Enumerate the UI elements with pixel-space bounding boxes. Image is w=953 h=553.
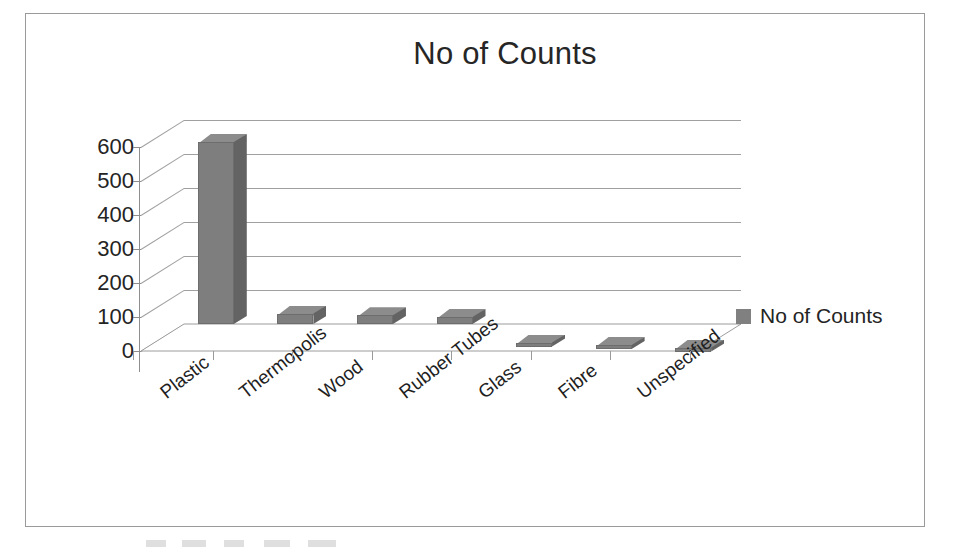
y-tick-label-100: 100 xyxy=(56,306,134,328)
bar-thermopolis xyxy=(277,306,326,324)
gridline-riser-600 xyxy=(141,120,185,148)
plot-area xyxy=(141,126,741,386)
x-tick-mark xyxy=(610,351,611,360)
y-tick-label-500: 500 xyxy=(56,170,134,192)
bar-fibre xyxy=(596,337,645,349)
x-tick-mark xyxy=(372,351,373,360)
y-tick-mark-500 xyxy=(133,181,141,182)
bar-wood xyxy=(357,307,406,324)
bar-front-face xyxy=(437,317,473,324)
bar-side-face xyxy=(234,134,247,324)
gridline-400 xyxy=(184,188,741,189)
bar-plastic xyxy=(198,134,247,324)
bar-front-face xyxy=(596,345,632,349)
x-tick-mark xyxy=(690,351,691,360)
y-tick-label-200: 200 xyxy=(56,272,134,294)
legend-swatch-no-of-counts xyxy=(736,309,751,324)
gridline-riser-500 xyxy=(141,154,185,182)
gridline-riser-400 xyxy=(141,188,185,216)
gridline-0 xyxy=(184,324,741,325)
bar-front-face xyxy=(357,315,393,324)
y-tick-mark-300 xyxy=(133,249,141,250)
y-tick-mark-200 xyxy=(133,283,141,284)
gridline-100 xyxy=(184,290,741,291)
legend-label-no-of-counts: No of Counts xyxy=(760,304,883,328)
gridline-300 xyxy=(184,222,741,223)
x-tick-mark xyxy=(292,351,293,360)
y-tick-mark-400 xyxy=(133,215,141,216)
gridline-riser-0 xyxy=(141,324,185,352)
chart-frame: No of Counts 6005004003002001000 Plastic… xyxy=(25,13,925,527)
x-tick-mark xyxy=(213,351,214,360)
y-tick-mark-0 xyxy=(133,351,141,352)
y-tick-mark-100 xyxy=(133,317,141,318)
y-tick-label-600: 600 xyxy=(56,136,134,158)
x-tick-mark xyxy=(531,351,532,360)
gridline-riser-100 xyxy=(141,290,185,318)
y-axis-tick-labels: 6005004003002001000 xyxy=(56,126,134,386)
bar-front-face xyxy=(198,142,234,324)
gridline-riser-300 xyxy=(141,222,185,250)
y-tick-label-400: 400 xyxy=(56,204,134,226)
gridline-200 xyxy=(184,256,741,257)
x-tick-mark xyxy=(451,351,452,360)
x-tick-mark xyxy=(133,351,134,360)
bar-glass xyxy=(516,335,565,347)
y-tick-label-300: 300 xyxy=(56,238,134,260)
gridline-riser-200 xyxy=(141,256,185,284)
gridline-600 xyxy=(184,120,741,121)
bar-front-face xyxy=(277,314,313,324)
gridline-500 xyxy=(184,154,741,155)
chart-legend: No of Counts xyxy=(736,304,883,328)
chart-title: No of Counts xyxy=(26,36,924,72)
y-tick-label-0: 0 xyxy=(56,340,134,362)
scan-artifact xyxy=(140,540,370,547)
bar-front-face xyxy=(516,343,552,347)
y-tick-mark-600 xyxy=(133,147,141,148)
